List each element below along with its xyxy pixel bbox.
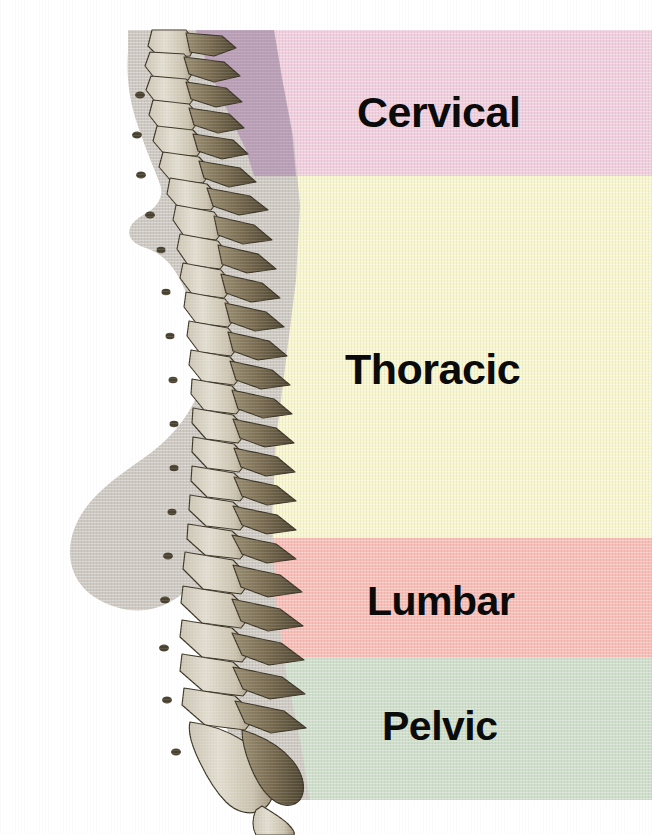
spine-figure-illustration bbox=[0, 0, 652, 835]
spine-regions-diagram: Cervical Thoracic Lumbar Pelvic bbox=[0, 0, 652, 835]
